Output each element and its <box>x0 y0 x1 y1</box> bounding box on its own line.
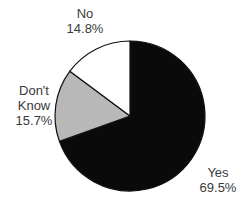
label-dont-know: Don't Know 15.7% <box>12 83 56 128</box>
label-dont-know-name-1: Don't <box>12 83 56 98</box>
label-yes: Yes 69.5% <box>196 165 240 195</box>
pie-slices <box>55 41 205 191</box>
label-no: No 14.8% <box>62 6 108 36</box>
label-dont-know-name-2: Know <box>12 98 56 113</box>
label-dont-know-value: 15.7% <box>12 113 56 128</box>
label-no-name: No <box>62 6 108 21</box>
label-yes-value: 69.5% <box>196 180 240 195</box>
label-yes-name: Yes <box>196 165 240 180</box>
label-no-value: 14.8% <box>62 21 108 36</box>
